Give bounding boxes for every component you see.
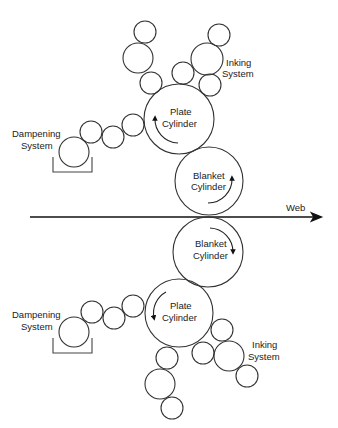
lower-inking-label-line1: Inking xyxy=(252,339,277,350)
upper-dampening-label-line2: System xyxy=(21,140,53,151)
upper-dampening-system xyxy=(59,114,144,167)
lower-inking-roller-5 xyxy=(214,341,244,371)
lower-dampening-system xyxy=(59,295,144,347)
upper-inking-roller-4 xyxy=(208,24,230,46)
lower-inking-roller-1 xyxy=(145,369,175,399)
lower-plate-label-line1: Plate xyxy=(170,300,192,311)
lower-dampening-roller-0 xyxy=(59,317,89,347)
upper-inking-roller-0 xyxy=(134,21,156,43)
upper-inking-roller-1 xyxy=(123,43,153,73)
lower-inking-roller-2 xyxy=(161,397,183,419)
upper-dampening-roller-1 xyxy=(80,121,102,143)
lower-dampening-roller-3 xyxy=(122,295,144,317)
lower-dampening-roller-2 xyxy=(103,307,125,329)
lower-inking-system xyxy=(145,319,258,419)
lower-blanket-label-line1: Blanket xyxy=(195,238,227,249)
lower-inking-label-line2: System xyxy=(248,351,280,362)
lower-plate-label-line2: Cylinder xyxy=(162,312,197,323)
upper-blanket-label-line1: Blanket xyxy=(193,170,225,181)
lower-dampening-label-line2: System xyxy=(21,321,53,332)
upper-dampening-roller-3 xyxy=(122,114,144,136)
lower-inking-roller-4 xyxy=(211,319,233,341)
upper-blanket-label-line2: Cylinder xyxy=(191,181,226,192)
upper-dampening-roller-2 xyxy=(102,126,124,148)
upper-inking-roller-3 xyxy=(172,62,194,84)
upper-plate-label-line2: Cylinder xyxy=(162,118,197,129)
lower-dampening-label-line1: Dampening xyxy=(12,309,61,320)
web-label: Web xyxy=(286,202,305,213)
upper-inking-roller-5 xyxy=(191,43,223,75)
lower-inking-roller-0 xyxy=(156,347,178,369)
lower-inking-roller-6 xyxy=(236,365,258,387)
upper-dampening-tray xyxy=(53,157,92,172)
upper-plate-label-line1: Plate xyxy=(170,106,192,117)
lower-blanket-label-line2: Cylinder xyxy=(193,250,228,261)
offset-press-diagram: Inking System Dampening System Plate Cyl… xyxy=(0,0,338,428)
lower-dampening-roller-1 xyxy=(81,301,103,323)
upper-dampening-label-line1: Dampening xyxy=(12,128,61,139)
upper-inking-system xyxy=(123,21,230,96)
upper-inking-label-line2: System xyxy=(222,68,254,79)
upper-inking-label-line1: Inking xyxy=(226,57,251,68)
lower-inking-roller-3 xyxy=(192,342,214,364)
